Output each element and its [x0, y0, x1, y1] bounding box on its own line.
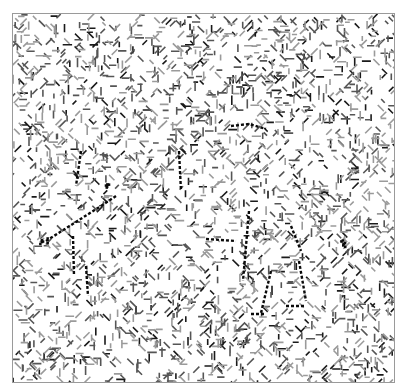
noise-pattern: [13, 14, 394, 382]
hidden-stroke: [206, 239, 236, 241]
noise-image-frame: [12, 13, 395, 383]
hidden-stroke: [76, 151, 81, 186]
